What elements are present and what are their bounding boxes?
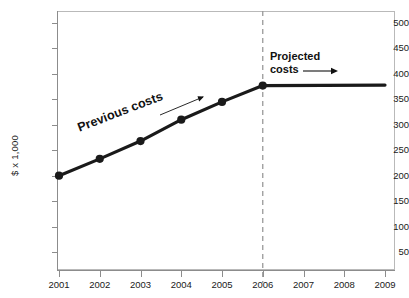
projected-costs-label-line1: Projected — [270, 50, 320, 63]
projected-costs-arrow-head — [331, 68, 338, 74]
data-point-2006 — [259, 81, 267, 89]
data-point-2005 — [218, 98, 226, 106]
plot-area — [0, 0, 409, 298]
data-point-2004 — [177, 116, 185, 124]
previous-costs-arrow-head — [198, 96, 205, 101]
series-line-projected-costs — [263, 85, 385, 86]
projected-costs-label: Projected costs — [270, 50, 320, 75]
data-point-2001 — [55, 172, 63, 180]
data-point-2002 — [96, 155, 104, 163]
chart-figure: $ x 1,000 50100150200250300350400450500 … — [0, 0, 409, 298]
projected-costs-label-line2: costs — [270, 63, 320, 76]
data-point-2003 — [136, 137, 144, 145]
